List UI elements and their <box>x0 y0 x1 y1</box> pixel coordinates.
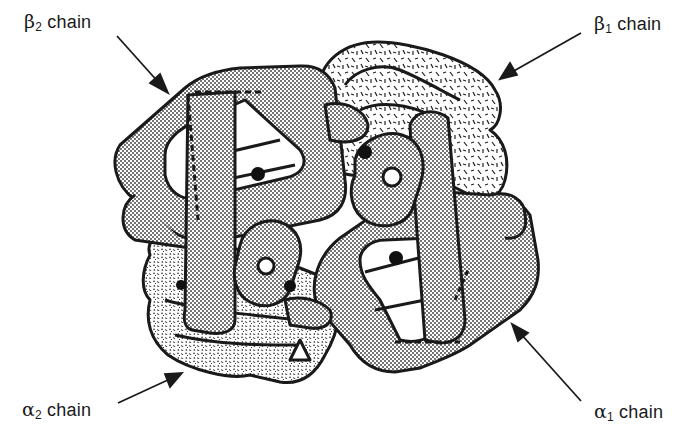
label-beta1: β1 chain <box>594 12 661 36</box>
arrow-beta2 <box>117 36 168 93</box>
label-alpha2: α2 chain <box>22 398 91 422</box>
heme-alpha2 <box>284 280 296 292</box>
heme-beta2 <box>251 167 265 181</box>
heme-beta1 <box>358 145 372 159</box>
arrow-alpha1 <box>512 324 581 401</box>
arrow-alpha2 <box>118 373 182 403</box>
heme-alpha1 <box>389 251 403 265</box>
hemoglobin-diagram <box>0 0 693 446</box>
label-alpha1: α1 chain <box>594 400 663 424</box>
label-beta2: β2 chain <box>24 10 91 34</box>
arrow-beta1 <box>500 33 581 79</box>
heme-alpha2-b <box>176 280 186 290</box>
